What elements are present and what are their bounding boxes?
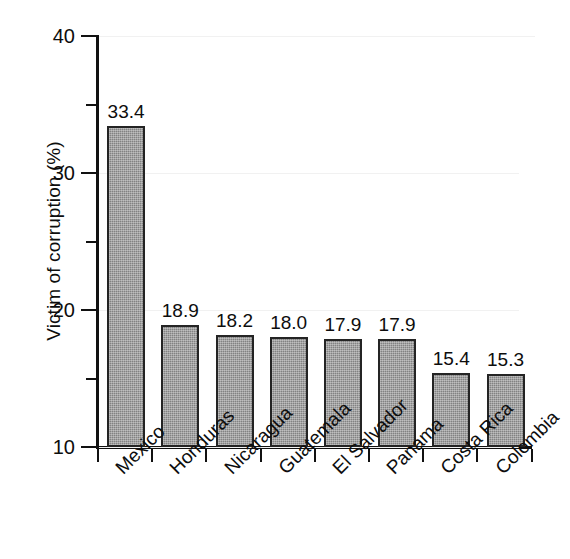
y-axis-tick-label: 40: [15, 26, 75, 46]
bar-value-label: 17.9: [362, 315, 432, 334]
bar: [107, 126, 145, 447]
gridline: [99, 36, 535, 37]
y-axis-tick-label: 30: [15, 163, 75, 183]
y-axis-minor-tick: [86, 378, 97, 380]
y-axis-major-tick: [81, 35, 97, 37]
bar-chart: Victim of corruption (%) 10203040 33.418…: [0, 0, 570, 559]
bar-value-label: 15.3: [471, 350, 541, 369]
y-axis-title: Victim of corruption (%): [43, 91, 65, 391]
bar-value-label: 33.4: [91, 102, 161, 121]
y-axis-tick-label: 10: [15, 437, 75, 457]
y-axis-major-tick: [81, 172, 97, 174]
y-axis-major-tick: [81, 309, 97, 311]
gridline: [99, 173, 519, 174]
x-axis-tick: [97, 449, 99, 462]
y-axis-tick-label: 20: [15, 300, 75, 320]
y-axis-minor-tick: [86, 241, 97, 243]
y-axis-major-tick: [81, 446, 97, 448]
bar: [161, 325, 199, 447]
